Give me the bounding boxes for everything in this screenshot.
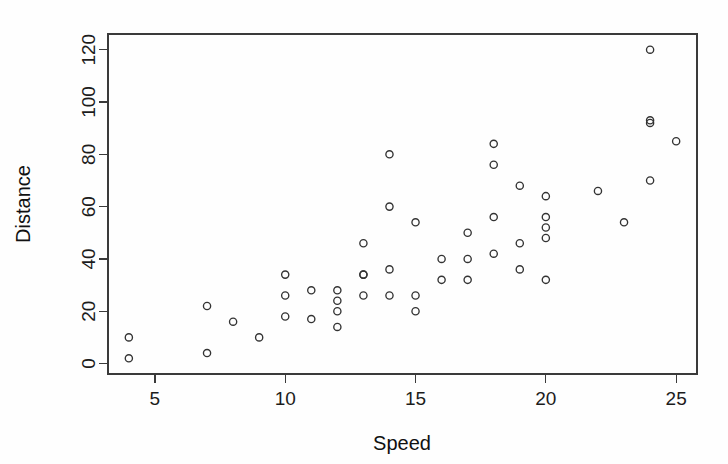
y-axis-title: Distance <box>12 165 34 243</box>
plot-canvas: 020406080100120 510152025 Speed Distance <box>0 0 728 464</box>
y-tick-label: 40 <box>78 248 99 269</box>
x-tick-label: 20 <box>535 388 556 409</box>
x-tick-label: 15 <box>405 388 426 409</box>
plot-background <box>0 0 728 464</box>
y-tick-label: 120 <box>78 34 99 66</box>
y-tick-label: 20 <box>78 301 99 322</box>
scatter-plot-figure: 020406080100120 510152025 Speed Distance <box>0 0 728 464</box>
x-tick-label: 25 <box>666 388 687 409</box>
y-tick-label: 100 <box>78 86 99 118</box>
x-axis-title: Speed <box>373 432 431 454</box>
y-tick-label: 80 <box>78 144 99 165</box>
y-tick-label: 60 <box>78 196 99 217</box>
x-tick-label: 10 <box>275 388 296 409</box>
y-tick-label: 0 <box>78 358 99 369</box>
x-tick-label: 5 <box>150 388 161 409</box>
